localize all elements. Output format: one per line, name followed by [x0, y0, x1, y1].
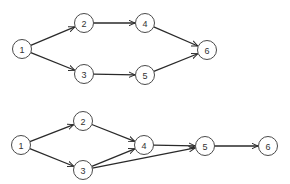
node-2: 2	[75, 14, 94, 33]
node-label: 1	[18, 141, 23, 151]
node-label: 6	[204, 46, 209, 56]
node-1: 1	[13, 40, 32, 59]
edge-1-to-2	[30, 125, 74, 142]
node-label: 5	[202, 142, 207, 152]
top-network-diagram: 123456	[13, 14, 217, 85]
node-label: 2	[80, 117, 85, 127]
bottom-network-diagram: 123456	[12, 112, 278, 180]
node-5: 5	[136, 66, 155, 85]
edge-1-to-3	[30, 149, 74, 167]
node-5: 5	[196, 137, 215, 156]
node-label: 6	[265, 142, 270, 152]
node-label: 4	[142, 19, 147, 29]
node-label: 3	[81, 70, 86, 80]
node-label: 3	[80, 166, 85, 176]
node-label: 2	[81, 19, 86, 29]
node-3: 3	[75, 65, 94, 84]
network-diagram-canvas: 123456 123456	[0, 0, 290, 184]
edge-4-to-5	[154, 145, 196, 146]
node-label: 5	[142, 71, 147, 81]
node-6: 6	[259, 137, 278, 156]
edge-3-to-5	[94, 74, 136, 75]
edge-5-to-6	[154, 54, 198, 72]
node-label: 4	[141, 141, 146, 151]
node-4: 4	[136, 14, 155, 33]
node-2: 2	[74, 112, 93, 131]
edge-2-to-4	[92, 124, 135, 141]
node-4: 4	[135, 136, 154, 155]
edge-1-to-3	[31, 53, 75, 71]
node-3: 3	[74, 161, 93, 180]
node-6: 6	[198, 41, 217, 60]
node-1: 1	[12, 136, 31, 155]
edge-1-to-2	[31, 27, 75, 45]
edge-4-to-6	[154, 27, 198, 46]
node-label: 1	[19, 45, 24, 55]
